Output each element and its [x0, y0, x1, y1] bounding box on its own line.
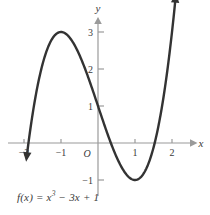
y-axis-arrowhead: [94, 17, 102, 24]
x-tick-label--1: −1: [56, 147, 67, 158]
x-tick-label-2: 2: [170, 147, 175, 158]
tick-labels-group: −2 −1 1 2 3 2 1 −1: [19, 27, 175, 186]
formula-tail: − 3x + 1: [56, 191, 100, 203]
y-tick-label--1: −1: [82, 175, 93, 186]
x-tick-label-1: 1: [133, 147, 138, 158]
axes-group: [8, 17, 198, 196]
curve-arrowhead-upper-right: [171, 0, 179, 3]
function-formula: f(x) = x3 − 3x + 1: [17, 189, 99, 203]
x-axis-label: x: [198, 137, 204, 149]
origin-label: O: [83, 148, 90, 159]
y-tick-label-1: 1: [88, 101, 93, 112]
y-tick-label-2: 2: [88, 64, 93, 75]
y-axis-label: y: [95, 2, 101, 14]
y-tick-label-3: 3: [88, 27, 93, 38]
x-axis-arrowhead: [190, 139, 198, 147]
graph-figure: −2 −1 1 2 3 2 1 −1 O x y f(x) = x3 − 3x …: [0, 0, 210, 215]
function-curve: [27, 0, 175, 180]
cubic-function-plot: −2 −1 1 2 3 2 1 −1 O x y: [0, 0, 210, 215]
formula-main: f(x) = x: [17, 191, 52, 203]
